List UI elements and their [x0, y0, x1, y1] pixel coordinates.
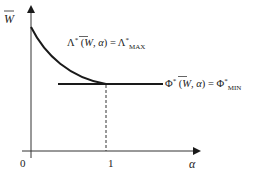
diagram-canvas: W α 0 1 Λ* (W, α) = Λ*MAX Φ* (W, α) = Φ*… — [0, 0, 259, 179]
svg-text:Λ* (W, α) = Λ*MAX: Λ* (W, α) = Λ*MAX — [67, 36, 145, 51]
y-axis-label: W — [4, 11, 15, 26]
lambda-curve — [31, 27, 106, 84]
lambda-curve-label: Λ* (W, α) = Λ*MAX — [67, 36, 145, 51]
svg-text:Φ* (W, α) = Φ*MIN: Φ* (W, α) = Φ*MIN — [165, 77, 241, 92]
x-tick-1: 1 — [108, 157, 114, 169]
phi-line-label: Φ* (W, α) = Φ*MIN — [165, 77, 241, 93]
x-axis-label: α — [189, 157, 196, 171]
x-tick-0: 0 — [20, 157, 26, 169]
svg-text:W: W — [4, 12, 15, 26]
